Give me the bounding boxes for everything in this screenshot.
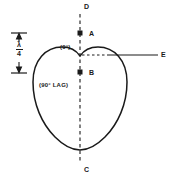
point-label-b: B bbox=[89, 69, 94, 76]
axis-label-e: E bbox=[161, 51, 166, 58]
dimension-numerator: λ bbox=[13, 41, 25, 48]
point-marker-a bbox=[78, 31, 83, 36]
axis-label-d: D bbox=[84, 3, 89, 10]
pattern-drawing bbox=[0, 0, 176, 179]
point-marker-b bbox=[78, 70, 83, 75]
axis-label-c: C bbox=[84, 166, 89, 173]
cardioid-pattern-figure: D C A B E (0°) (90° LAG) λ 4 bbox=[0, 0, 176, 179]
quarter-wavelength-label: λ 4 bbox=[13, 41, 25, 58]
phase-label-zero-degrees: (0°) bbox=[60, 44, 71, 50]
point-label-a: A bbox=[89, 30, 94, 37]
dimension-denominator: 4 bbox=[13, 50, 25, 57]
phase-label-ninety-lag: (90° LAG) bbox=[39, 82, 68, 88]
